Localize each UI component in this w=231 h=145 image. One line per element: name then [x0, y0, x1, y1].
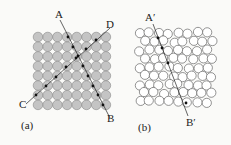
label-B-prime: B′ [186, 117, 196, 128]
label-D: D [106, 19, 114, 30]
panel-a-label: (a) [21, 120, 33, 131]
panel-b-label: (b) [138, 122, 151, 133]
label-A-prime: A′ [145, 12, 155, 23]
label-C: C [19, 99, 26, 110]
label-A: A [55, 9, 63, 20]
lattice-diagram [0, 0, 231, 145]
figure: A D C B (a) A′ B′ (b) [0, 0, 231, 145]
label-B: B [107, 113, 114, 124]
